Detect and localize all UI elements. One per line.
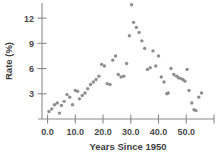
data-point <box>122 74 125 77</box>
x-tick-label: 0.0 <box>41 127 54 137</box>
data-point <box>71 103 74 106</box>
data-point <box>148 66 151 69</box>
x-tick-label: 30.0 <box>122 127 140 137</box>
data-point <box>117 73 120 76</box>
data-point <box>132 21 135 24</box>
x-tick-label: 50.0 <box>177 127 195 137</box>
data-point <box>94 78 97 81</box>
data-point <box>83 91 86 94</box>
data-point <box>130 3 133 6</box>
data-point <box>97 74 100 77</box>
y-tick-label: 9 <box>29 39 34 49</box>
x-axis-title: Years Since 1950 <box>89 141 166 152</box>
data-point <box>125 62 128 65</box>
data-point <box>183 79 186 82</box>
scatter-chart: 369120.010.020.030.040.050.0Years Since … <box>0 0 224 161</box>
data-point <box>76 90 79 93</box>
data-point <box>194 109 197 112</box>
data-point <box>62 100 65 103</box>
data-point <box>86 87 89 90</box>
data-point <box>185 68 188 71</box>
data-point <box>78 97 81 100</box>
data-point <box>111 58 114 61</box>
y-axis-title: Rate (%) <box>3 42 14 80</box>
plot-area: 369120.010.020.030.040.050.0Years Since … <box>0 0 224 161</box>
x-tick-label: 10.0 <box>67 127 85 137</box>
data-point <box>167 91 170 94</box>
data-point <box>56 101 59 104</box>
data-point <box>81 94 84 97</box>
data-point <box>103 64 106 67</box>
data-point <box>197 95 200 98</box>
y-tick-label: 6 <box>29 64 34 74</box>
data-point <box>89 83 92 86</box>
data-point <box>157 54 160 57</box>
data-point <box>68 95 71 98</box>
data-point <box>58 111 61 114</box>
data-point <box>140 39 143 42</box>
data-point <box>187 89 190 92</box>
data-point <box>65 93 68 96</box>
data-point <box>60 104 63 107</box>
data-point <box>128 34 131 37</box>
y-tick-label: 12 <box>24 14 34 24</box>
data-point <box>114 54 117 57</box>
data-point <box>108 83 111 86</box>
x-tick-label: 40.0 <box>150 127 168 137</box>
data-point <box>200 91 203 94</box>
data-point <box>169 67 172 70</box>
x-tick-label: 20.0 <box>94 127 112 137</box>
data-point <box>162 80 165 83</box>
data-point <box>143 47 146 50</box>
data-point <box>137 31 140 34</box>
data-point <box>190 101 193 104</box>
data-point <box>135 26 138 29</box>
y-tick-label: 3 <box>29 89 34 99</box>
data-point <box>47 110 50 113</box>
data-point <box>154 64 157 67</box>
data-point <box>50 107 53 110</box>
data-point <box>151 49 154 52</box>
data-point <box>92 80 95 83</box>
data-point <box>160 75 163 78</box>
